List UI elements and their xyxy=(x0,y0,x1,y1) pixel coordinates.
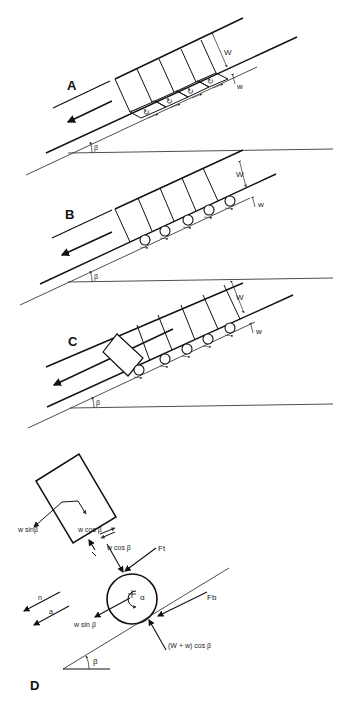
svg-text:β: β xyxy=(96,399,100,407)
panel-b: B β W w xyxy=(20,150,333,305)
svg-text:W: W xyxy=(236,293,244,302)
svg-text:W: W xyxy=(236,170,244,179)
dim-W: W xyxy=(224,48,232,57)
panel-a: A β ↻ ↻ ↻ xyxy=(26,18,333,175)
panel-b-rollers xyxy=(140,196,235,245)
svg-text:β: β xyxy=(93,657,98,666)
block xyxy=(36,454,116,543)
svg-text:↻: ↻ xyxy=(207,77,214,86)
svg-text:w: w xyxy=(255,327,262,336)
svg-text:↻: ↻ xyxy=(166,97,173,106)
panel-d: D w sinβ w cos β w cos β Ft α w sin β β xyxy=(17,454,229,693)
panel-a-rotation-glyphs: ↻ ↻ ↻ ↻ xyxy=(143,77,214,117)
svg-text:↻: ↻ xyxy=(143,108,150,117)
svg-text:Ft: Ft xyxy=(158,544,166,553)
panel-c-label: C xyxy=(68,334,78,349)
svg-text:(W + w) cos β: (W + w) cos β xyxy=(168,642,211,650)
svg-text:w: w xyxy=(257,200,264,209)
svg-text:β: β xyxy=(94,273,98,281)
panel-c: C β W xyxy=(28,283,333,428)
svg-text:w sin β: w sin β xyxy=(73,621,96,629)
svg-text:a: a xyxy=(49,608,53,615)
svg-text:w sinβ: w sinβ xyxy=(17,526,38,534)
svg-text:β: β xyxy=(94,144,98,152)
panel-b-label: B xyxy=(65,207,74,222)
dim-w: w xyxy=(236,82,243,91)
svg-text:Fb: Fb xyxy=(207,593,217,602)
panel-a-label: A xyxy=(67,78,77,93)
diagram-canvas: A β ↻ ↻ ↻ xyxy=(0,0,349,705)
svg-text:↻: ↻ xyxy=(187,87,194,96)
svg-text:w cos β: w cos β xyxy=(106,544,131,552)
panel-d-label: D xyxy=(30,678,39,693)
svg-text:w cos β: w cos β xyxy=(77,526,102,534)
svg-text:α: α xyxy=(140,593,145,602)
svg-text:n: n xyxy=(38,594,42,601)
